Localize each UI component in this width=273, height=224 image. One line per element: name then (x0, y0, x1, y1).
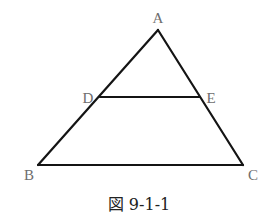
triangle-figure: A D E B C 図 9-1-1 (0, 0, 273, 224)
label-d: D (83, 90, 94, 106)
label-b: B (24, 167, 34, 183)
label-a: A (153, 10, 164, 26)
figure-caption: 図 9-1-1 (108, 195, 170, 214)
label-e: E (206, 90, 215, 106)
label-c: C (248, 167, 258, 183)
